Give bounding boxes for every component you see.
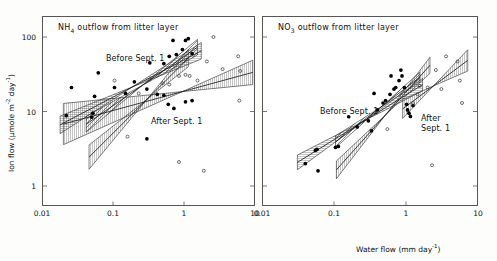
x-tick-nh4-2: 1 <box>182 209 187 218</box>
x-tick-no3-1: 0.1 <box>328 209 340 218</box>
y-tick-0: 100 <box>12 33 36 42</box>
y-tick-2: 1 <box>12 182 36 191</box>
panel-nh4: NH4 outflow from litter layer <box>42 16 255 206</box>
after-sept-label: After Sept. 1 <box>151 117 202 126</box>
before-sept-label: Before Sept. 1 <box>106 54 165 63</box>
x-tick-no3-0: 0.01 <box>254 209 271 218</box>
panel-nh4-plot <box>42 16 255 206</box>
figure-root: Ion flow (µmole m-2 day-1) Water flow (m… <box>0 0 497 261</box>
x-tick-nh4-0: 0.01 <box>34 209 51 218</box>
x-axis-title: Water flow (mm day-1) <box>356 243 441 254</box>
panel-no3-title: NO3 outflow from litter layer <box>278 23 399 34</box>
y-axis-title: Ion flow (µmole m-2 day-1) <box>0 0 8 54</box>
panel-nh4-title: NH4 outflow from litter layer <box>58 23 178 34</box>
x-tick-no3-3: 10 <box>473 209 483 218</box>
y-tick-1: 10 <box>12 107 36 116</box>
before-sept-label: Before Sept. 1 <box>320 107 379 116</box>
x-tick-no3-2: 1 <box>404 209 409 218</box>
x-tick-nh4-1: 0.1 <box>107 209 119 218</box>
after-sept-label-2: Sept. 1 <box>421 124 450 133</box>
after-sept-label-1: After <box>421 114 441 123</box>
